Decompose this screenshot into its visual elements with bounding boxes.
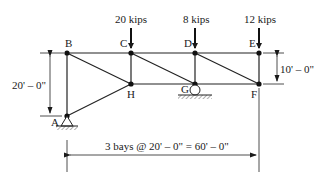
joint-D bbox=[192, 50, 197, 55]
load-arrows bbox=[131, 28, 259, 48]
node-label-F: F bbox=[251, 89, 257, 100]
member-DF bbox=[195, 53, 259, 84]
joint-H bbox=[128, 81, 133, 86]
span-label: 3 bays @ 20' – 0" = 60' – 0" bbox=[105, 141, 229, 152]
node-label-E: E bbox=[249, 38, 256, 49]
member-BH bbox=[67, 53, 131, 84]
truss-diagram: B C D E H G F A 20 kips 8 kips 12 kips 2… bbox=[0, 0, 317, 182]
truss-members bbox=[67, 53, 259, 116]
load-label-D: 8 kips bbox=[183, 14, 210, 25]
truss-drawing bbox=[0, 0, 317, 182]
node-label-H: H bbox=[127, 89, 135, 100]
load-label-E: 12 kips bbox=[244, 14, 276, 25]
left-height-label: 20' – 0" bbox=[12, 80, 46, 91]
load-label-C: 20 kips bbox=[115, 14, 147, 25]
node-label-D: D bbox=[184, 38, 192, 49]
node-label-B: B bbox=[65, 38, 72, 49]
span-dimension bbox=[67, 88, 259, 172]
joint-B bbox=[64, 50, 69, 55]
member-CG bbox=[131, 53, 195, 84]
joint-E bbox=[256, 50, 261, 55]
node-label-G: G bbox=[181, 84, 189, 95]
node-label-C: C bbox=[120, 38, 127, 49]
node-label-A: A bbox=[51, 117, 59, 128]
pin-support-icon bbox=[56, 116, 78, 130]
right-depth-label: 10' – 0" bbox=[280, 64, 314, 75]
joint-F bbox=[256, 81, 261, 86]
member-HA bbox=[67, 84, 131, 116]
joint-C bbox=[128, 50, 133, 55]
